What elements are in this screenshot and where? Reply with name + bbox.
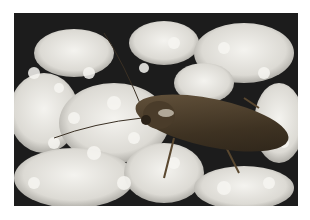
cockroach-on-flowers-image	[14, 13, 298, 206]
photo: Close-up photograph of a brown cockroach…	[14, 13, 298, 206]
